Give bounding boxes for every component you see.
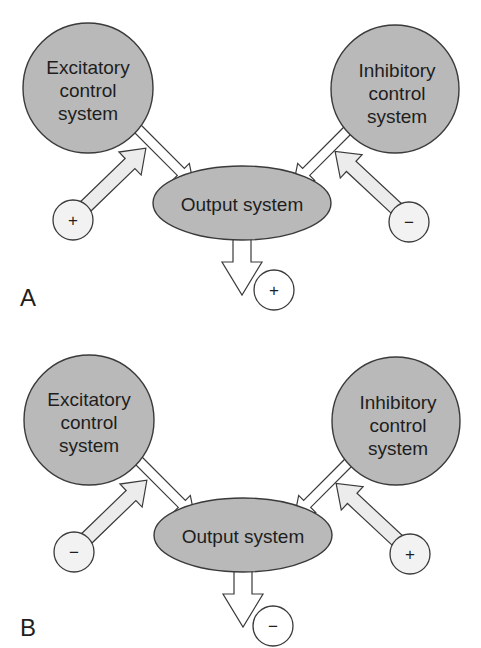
- node-label-line: system: [368, 438, 428, 459]
- panel-label: A: [20, 284, 36, 311]
- output-result-sign: +: [254, 270, 294, 310]
- svg-text:+: +: [405, 545, 415, 564]
- node-label-line: control: [60, 412, 117, 433]
- svg-text:+: +: [68, 211, 78, 230]
- output-system-node: Output system: [154, 498, 332, 572]
- node-label-line: system: [59, 435, 119, 456]
- output-system-node: Output system: [153, 166, 331, 240]
- node-label-line: Inhibitory: [359, 392, 437, 413]
- inhibitory-input-sign: −: [389, 202, 429, 242]
- svg-text:−: −: [404, 213, 414, 232]
- inhibitory-control-system-node: Inhibitory control system: [332, 357, 460, 485]
- node-label-line: Excitatory: [47, 389, 131, 410]
- output-label: Output system: [182, 526, 305, 547]
- node-label-line: system: [58, 103, 118, 124]
- svg-text:−: −: [69, 543, 79, 562]
- node-label-line: control: [59, 80, 116, 101]
- node-label-line: Inhibitory: [358, 60, 436, 81]
- node-label-line: Excitatory: [46, 57, 130, 78]
- excitatory-input-sign: +: [53, 200, 93, 240]
- svg-text:+: +: [269, 281, 279, 300]
- panel-label: B: [20, 614, 36, 641]
- excitatory-control-system-node: Excitatory control system: [23, 23, 153, 153]
- panel-b: Excitatory control system Inhibitory con…: [20, 355, 460, 646]
- excitatory-input-sign: −: [54, 532, 94, 572]
- diagram-canvas: Excitatory control system Inhibitory con…: [0, 0, 481, 648]
- inhibitory-control-system-node: Inhibitory control system: [331, 25, 459, 153]
- output-result-sign: −: [253, 606, 293, 646]
- node-label-line: system: [367, 106, 427, 127]
- output-label: Output system: [181, 194, 304, 215]
- svg-text:−: −: [268, 617, 278, 636]
- inhibitory-input-sign: +: [390, 534, 430, 574]
- node-label-line: control: [368, 83, 425, 104]
- panel-a: Excitatory control system Inhibitory con…: [20, 23, 459, 311]
- excitatory-control-system-node: Excitatory control system: [24, 355, 154, 485]
- node-label-line: control: [369, 415, 426, 436]
